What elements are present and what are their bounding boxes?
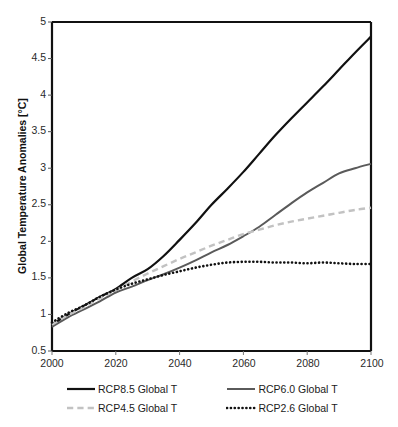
legend-item-rcp60[interactable]: RCP6.0 Global T — [212, 379, 382, 398]
legend-item-rcp45[interactable]: RCP4.5 Global T — [52, 398, 212, 417]
legend-item-rcp26[interactable]: RCP2.6 Global T — [212, 398, 382, 417]
legend-label: RCP8.5 Global T — [98, 383, 177, 395]
series-line — [52, 37, 371, 325]
series-line — [52, 262, 371, 323]
legend-line-icon — [226, 403, 256, 413]
chart-legend: RCP8.5 Global T RCP6.0 Global T RCP4.5 G… — [52, 379, 382, 421]
series-line — [52, 208, 371, 325]
legend-line-icon — [66, 384, 96, 394]
legend-label: RCP4.5 Global T — [98, 402, 177, 414]
legend-label: RCP6.0 Global T — [258, 383, 337, 395]
legend-item-rcp85[interactable]: RCP8.5 Global T — [52, 379, 212, 398]
legend-line-icon — [66, 403, 96, 413]
chart-figure: Global Temperature Anomalies [°C] 5 4.5 … — [0, 0, 398, 427]
legend-label: RCP2.6 Global T — [258, 402, 337, 414]
plot-area — [0, 0, 398, 427]
legend-row: RCP4.5 Global T RCP2.6 Global T — [52, 398, 382, 417]
legend-row: RCP8.5 Global T RCP6.0 Global T — [52, 379, 382, 398]
data-series-group — [52, 37, 371, 327]
legend-line-icon — [226, 384, 256, 394]
